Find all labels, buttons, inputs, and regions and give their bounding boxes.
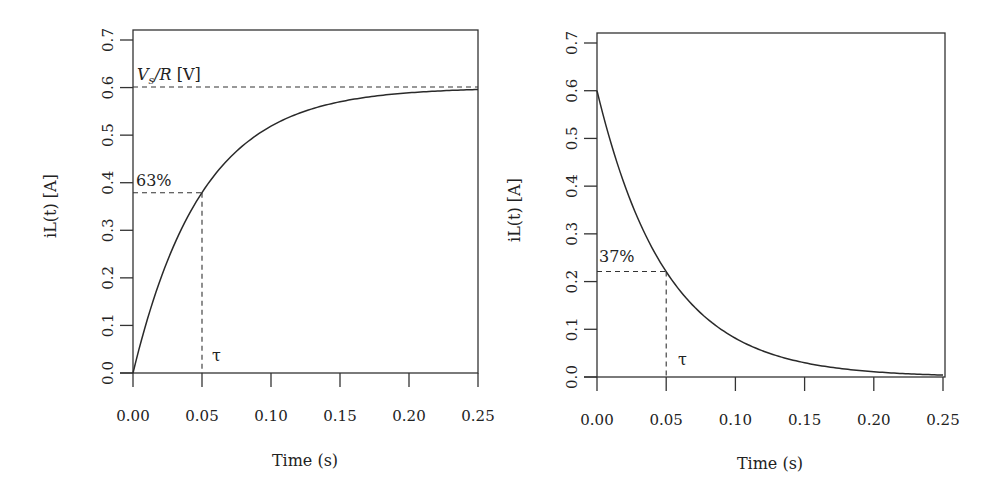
right-chart-panel: 0.00.10.20.30.40.50.60.7 0.000.050.100.1…	[505, 31, 960, 473]
y-tick-label: 0.2	[99, 266, 117, 290]
x-tick-label: 0.20	[392, 407, 425, 425]
y-tick-label: 0.7	[99, 28, 117, 52]
x-tick-label: 0.00	[116, 407, 149, 425]
right-plot-box	[597, 33, 945, 377]
x-tick-label: 0.15	[323, 407, 356, 425]
left-x-axis: 0.000.050.100.150.200.25	[116, 373, 494, 425]
y-tick-label: 0.5	[99, 123, 117, 147]
left-y-axis: 0.00.10.20.30.40.50.60.7	[99, 28, 133, 385]
right-37-percent-label: 37%	[599, 247, 635, 266]
y-tick-label: 0.1	[563, 317, 581, 341]
y-tick-label: 0.3	[563, 222, 581, 246]
left-y-axis-title: iL(t) [A]	[41, 174, 60, 238]
y-tick-label: 0.1	[99, 313, 117, 337]
right-x-axis: 0.000.050.100.150.200.25	[580, 377, 959, 429]
left-tau-label: τ	[212, 346, 221, 365]
x-tick-label: 0.10	[719, 411, 752, 429]
figure: 0.00.10.20.30.40.50.60.7 0.000.050.100.1…	[0, 0, 995, 502]
x-tick-label: 0.25	[926, 411, 959, 429]
x-tick-label: 0.15	[788, 411, 821, 429]
right-37-percent-guides	[597, 272, 666, 377]
left-x-axis-title: Time (s)	[272, 451, 338, 470]
y-tick-label: 0.0	[563, 365, 581, 389]
x-tick-label: 0.20	[857, 411, 890, 429]
x-tick-label: 0.05	[649, 411, 682, 429]
y-tick-label: 0.0	[99, 361, 117, 385]
x-tick-label: 0.25	[461, 407, 494, 425]
y-tick-label: 0.2	[563, 270, 581, 294]
right-y-axis: 0.00.10.20.30.40.50.60.7	[563, 31, 597, 389]
x-tick-label: 0.00	[580, 411, 613, 429]
left-chart-panel: 0.00.10.20.30.40.50.60.7 0.000.050.100.1…	[41, 28, 495, 470]
left-charging-curve	[133, 89, 478, 373]
right-y-axis-title: iL(t) [A]	[505, 178, 524, 242]
y-tick-label: 0.6	[563, 79, 581, 103]
left-vs-r-label: Vs/R [V]	[137, 65, 201, 87]
y-tick-label: 0.6	[99, 76, 117, 100]
y-tick-label: 0.5	[563, 126, 581, 150]
right-discharging-curve	[597, 91, 943, 375]
y-tick-label: 0.4	[99, 171, 117, 195]
right-tau-label: τ	[678, 350, 687, 369]
y-tick-label: 0.3	[99, 218, 117, 242]
left-63-percent-label: 63%	[136, 171, 172, 190]
right-x-axis-title: Time (s)	[737, 454, 803, 473]
left-63-percent-guides	[133, 193, 202, 373]
x-tick-label: 0.10	[254, 407, 287, 425]
x-tick-label: 0.05	[185, 407, 218, 425]
y-tick-label: 0.4	[563, 174, 581, 198]
y-tick-label: 0.7	[563, 31, 581, 55]
